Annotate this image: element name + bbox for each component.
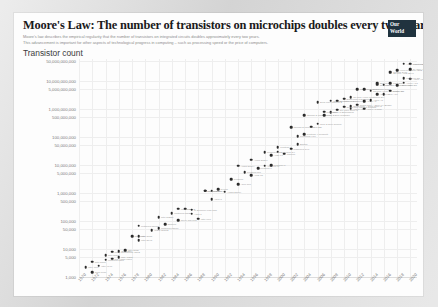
data-point-label: Intel 8088: [141, 234, 152, 237]
data-point[interactable]: [369, 99, 372, 102]
data-point[interactable]: [383, 93, 386, 96]
data-point[interactable]: [157, 216, 160, 219]
data-point[interactable]: [210, 198, 213, 201]
data-point[interactable]: [369, 90, 372, 93]
y-tick-label: 5,000,000: [57, 171, 76, 176]
data-point[interactable]: [204, 189, 207, 192]
data-point[interactable]: [270, 154, 273, 157]
data-point[interactable]: [170, 212, 173, 215]
data-point[interactable]: [230, 178, 233, 181]
data-point[interactable]: [409, 63, 412, 66]
gridline-horizontal: [79, 81, 417, 82]
data-point[interactable]: [190, 208, 193, 211]
gridline-horizontal: [79, 193, 417, 194]
data-point[interactable]: [323, 110, 326, 113]
data-point-label: ARM 1: [194, 212, 202, 215]
data-point[interactable]: [363, 100, 366, 103]
data-point[interactable]: [104, 259, 107, 262]
data-point[interactable]: [389, 82, 392, 85]
gridline-horizontal: [79, 229, 417, 230]
data-point[interactable]: [117, 250, 120, 253]
data-point[interactable]: [402, 77, 405, 80]
data-point[interactable]: [237, 183, 240, 186]
data-point[interactable]: [310, 125, 313, 128]
data-point[interactable]: [184, 207, 187, 210]
data-point[interactable]: [243, 171, 246, 174]
data-point[interactable]: [389, 90, 392, 93]
y-tick-label: 100,000,000: [52, 134, 76, 139]
data-point[interactable]: [296, 143, 299, 146]
data-point[interactable]: [343, 105, 346, 108]
data-point-label: WDC 65C02: [154, 229, 168, 232]
data-point[interactable]: [137, 224, 140, 227]
data-point[interactable]: [402, 63, 405, 66]
data-point[interactable]: [389, 70, 392, 73]
data-point[interactable]: [91, 260, 94, 263]
data-point[interactable]: [111, 250, 114, 253]
data-point-label: Apple A5: [353, 107, 363, 110]
data-point-label: Novix NC4016: [181, 219, 197, 222]
gridline-vertical: [106, 59, 107, 277]
data-point[interactable]: [111, 257, 114, 260]
data-point[interactable]: [151, 229, 154, 232]
data-point[interactable]: [296, 135, 299, 138]
data-point[interactable]: [290, 126, 293, 129]
data-point[interactable]: [237, 164, 240, 167]
data-point[interactable]: [98, 265, 101, 268]
data-point[interactable]: [91, 271, 94, 274]
data-point[interactable]: [277, 146, 280, 149]
data-point[interactable]: [224, 190, 227, 193]
data-point[interactable]: [356, 88, 359, 91]
data-point[interactable]: [349, 107, 352, 110]
data-point-label: PowerPC 970: [300, 135, 315, 138]
gridline-vertical: [212, 59, 213, 277]
data-point[interactable]: [104, 254, 107, 257]
data-point[interactable]: [137, 239, 140, 242]
gridline-horizontal: [79, 201, 417, 202]
data-point[interactable]: [164, 223, 167, 226]
data-point[interactable]: [190, 212, 193, 215]
data-point[interactable]: [396, 69, 399, 72]
data-point[interactable]: [330, 100, 333, 103]
data-point[interactable]: [257, 167, 260, 170]
gridline-horizontal: [79, 137, 417, 138]
data-point[interactable]: [363, 107, 366, 110]
data-point[interactable]: [177, 207, 180, 210]
data-point-label: Z80000: [168, 223, 176, 226]
data-point[interactable]: [349, 96, 352, 99]
gridline-vertical: [132, 59, 133, 277]
data-point[interactable]: [290, 147, 293, 150]
y-tick-label: 500,000,000: [52, 115, 76, 120]
gridline-vertical: [410, 59, 411, 277]
data-point[interactable]: [277, 151, 280, 154]
data-point[interactable]: [137, 235, 140, 238]
data-point[interactable]: [197, 217, 200, 220]
owid-logo[interactable]: Our World in Data: [388, 20, 416, 37]
data-point[interactable]: [303, 114, 306, 117]
data-point-label: Apple A10: [386, 93, 397, 96]
data-point[interactable]: [363, 88, 366, 91]
chart-card: Moore's Law: The number of transistors o…: [14, 13, 423, 296]
data-point[interactable]: [263, 151, 266, 154]
data-point-label: Motorola 68000: [141, 224, 158, 227]
y-tick-label: 1,000,000,000: [49, 106, 76, 111]
data-point[interactable]: [409, 68, 412, 71]
data-point[interactable]: [263, 164, 266, 167]
data-point[interactable]: [336, 99, 339, 102]
data-point[interactable]: [131, 235, 134, 238]
data-point[interactable]: [250, 174, 253, 177]
data-point[interactable]: [356, 103, 359, 106]
gridline-vertical: [119, 59, 120, 277]
data-point[interactable]: [124, 249, 127, 252]
data-point[interactable]: [210, 189, 213, 192]
data-point[interactable]: [316, 101, 319, 104]
data-point[interactable]: [270, 164, 273, 167]
data-point[interactable]: [250, 159, 253, 162]
data-point[interactable]: [376, 82, 379, 85]
data-point[interactable]: [177, 219, 180, 222]
data-point[interactable]: [323, 114, 326, 117]
data-point-label: POWER9: [393, 82, 404, 85]
y-tick-label: 10,000: [63, 246, 76, 251]
data-point[interactable]: [84, 266, 87, 269]
data-point[interactable]: [376, 93, 379, 96]
